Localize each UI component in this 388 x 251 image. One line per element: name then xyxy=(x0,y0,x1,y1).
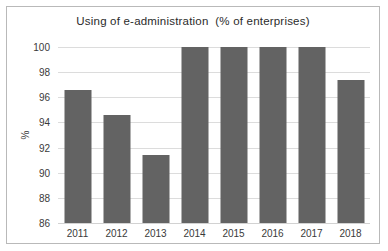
bar-slot xyxy=(175,47,214,223)
bar[interactable] xyxy=(337,80,364,223)
x-axis-tick-label: 2012 xyxy=(105,228,127,239)
bar[interactable] xyxy=(181,47,208,223)
y-axis-tick-label: 92 xyxy=(10,142,50,153)
y-axis-tick-label: 100 xyxy=(10,42,50,53)
bar-slot xyxy=(292,47,331,223)
x-axis-tick-label: 2013 xyxy=(144,228,166,239)
bar[interactable] xyxy=(298,47,325,223)
y-axis-tick-label: 90 xyxy=(10,167,50,178)
gridline xyxy=(58,223,370,224)
bar-slot xyxy=(253,47,292,223)
x-axis-tick-label: 2017 xyxy=(300,228,322,239)
x-axis-tick-label: 2016 xyxy=(261,228,283,239)
y-axis-tick-label: 98 xyxy=(10,67,50,78)
bar[interactable] xyxy=(259,47,286,223)
x-axis-tick-label: 2015 xyxy=(222,228,244,239)
y-axis-tick-label: 86 xyxy=(10,218,50,229)
bar-slot xyxy=(214,47,253,223)
bar[interactable] xyxy=(142,155,169,223)
y-axis-title: % xyxy=(20,131,31,140)
x-axis-tick-label: 2014 xyxy=(183,228,205,239)
y-axis-tick-label: 94 xyxy=(10,117,50,128)
bar-slot xyxy=(97,47,136,223)
bar[interactable] xyxy=(103,115,130,223)
y-axis-tick-label: 96 xyxy=(10,92,50,103)
bar-slot xyxy=(331,47,370,223)
y-axis-tick-label: 88 xyxy=(10,192,50,203)
bar-series xyxy=(58,47,370,223)
plot-area xyxy=(58,47,370,223)
bar[interactable] xyxy=(220,47,247,223)
chart-title: Using of e-administration (% of enterpri… xyxy=(7,15,379,27)
x-axis-tick-label: 2011 xyxy=(67,228,89,239)
chart-frame: Using of e-administration (% of enterpri… xyxy=(6,6,380,244)
bar[interactable] xyxy=(64,90,91,223)
x-axis-tick-label: 2018 xyxy=(339,228,361,239)
bar-slot xyxy=(58,47,97,223)
bar-slot xyxy=(136,47,175,223)
